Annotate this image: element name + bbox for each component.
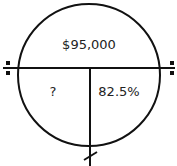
magic-circle-diagram bbox=[0, 0, 177, 166]
unknown-part-label: ? bbox=[50, 84, 57, 99]
percent-label: 82.5% bbox=[98, 84, 139, 99]
whole-amount-label: $95,000 bbox=[62, 37, 116, 52]
